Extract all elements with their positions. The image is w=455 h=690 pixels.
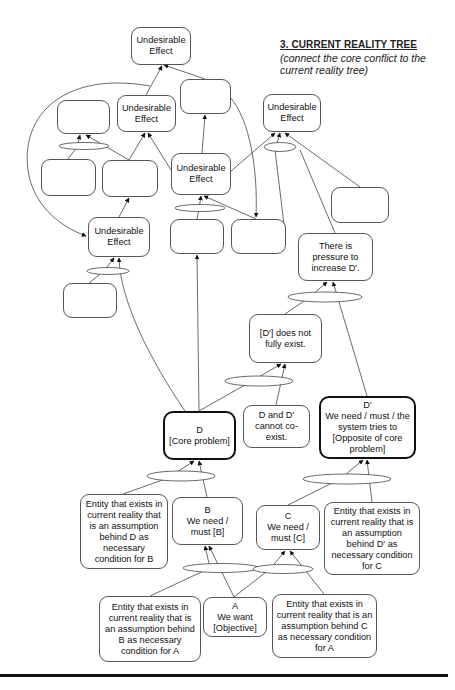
node-label: Entity that exists in current reality th… (86, 499, 163, 565)
node-entity-assumption-d-for-b: Entity that exists in current reality th… (80, 494, 168, 569)
node-label: Undesirable Effect (136, 35, 185, 57)
node-entity-assumption-c-for-a: Entity that exists in current reality th… (272, 594, 377, 658)
node-entity-assumption-dprime-for-c: Entity that exists in current reality th… (324, 502, 420, 575)
node-empty-right (331, 187, 389, 223)
node-dprime-not-fully-exist: [D'] does not fully exist. (249, 314, 322, 363)
node-a-objective: A We want [Objective] (203, 597, 267, 637)
and-connector (225, 376, 293, 386)
section-subtitle: (connect the core conflict to the curren… (280, 52, 450, 77)
node-label: Entity that exists in current reality th… (105, 602, 195, 657)
node-label: Undesirable Effect (267, 102, 316, 124)
and-connector (175, 205, 225, 212)
node-c-need: C We need / must [C] (256, 505, 320, 550)
node-undesirable-effect-lower-left: Undesirable Effect (88, 217, 150, 257)
node-label: Undesirable Effect (122, 103, 171, 125)
node-label: There is pressure to increase D'. (311, 241, 359, 274)
node-label: Entity that exists in current reality th… (331, 506, 414, 572)
node-label: A We want [Objective] (213, 601, 256, 634)
node-undesirable-effect-mid-left: Undesirable Effect (117, 95, 176, 132)
node-empty-top-left (57, 100, 110, 134)
node-empty-row2-b (102, 160, 158, 197)
and-connector (87, 268, 129, 275)
node-empty-row2-a (41, 159, 96, 196)
node-empty-top-right (180, 79, 231, 114)
node-entity-assumption-b-for-a: Entity that exists in current reality th… (99, 596, 201, 662)
and-connector (253, 565, 313, 574)
node-undesirable-effect-right: Undesirable Effect (263, 94, 321, 132)
node-b-need: B We need / must [B] (172, 497, 243, 545)
and-connector (303, 474, 391, 484)
node-empty-center-b (231, 219, 286, 254)
node-label: D and D' cannot co- exist. (255, 410, 298, 443)
node-empty-left-low (63, 283, 117, 318)
node-empty-center-a (170, 219, 224, 254)
and-connector (147, 471, 215, 481)
section-heading: 3. CURRENT REALITY TREE (280, 39, 417, 50)
node-label: Undesirable Effect (176, 163, 225, 185)
and-connector (288, 292, 362, 302)
node-label: [D'] does not fully exist. (260, 328, 311, 350)
node-label: Undesirable Effect (94, 226, 143, 248)
and-connector (59, 143, 109, 150)
node-label: C We need / must [C] (267, 511, 309, 544)
node-undesirable-effect-center: Undesirable Effect (171, 153, 231, 195)
node-label: D' We need / must / the system tries to … (325, 400, 410, 455)
node-label: B We need / must [B] (187, 505, 229, 538)
section-title: 3. CURRENT REALITY TREE (connect the cor… (280, 38, 450, 77)
node-pressure-increase-dprime: There is pressure to increase D'. (298, 233, 373, 281)
node-dprime-opposite: D' We need / must / the system tries to … (319, 396, 416, 459)
and-connector (264, 143, 296, 152)
node-d-core-problem: D [Core problem] (163, 411, 236, 460)
node-label: D [Core problem] (169, 425, 230, 447)
node-d-and-dprime-conflict: D and D' cannot co- exist. (243, 405, 310, 448)
node-label: Entity that exists in current reality th… (277, 599, 373, 654)
bottom-divider (0, 674, 448, 677)
and-connector (183, 564, 259, 573)
node-undesirable-effect-top: Undesirable Effect (131, 27, 191, 65)
